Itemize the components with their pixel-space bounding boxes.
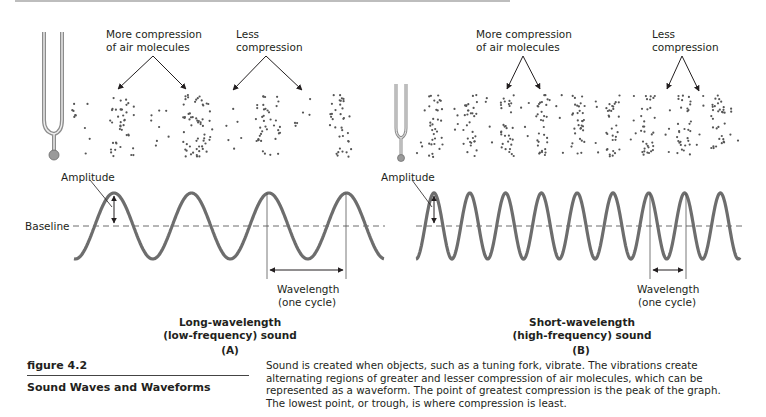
baseline-label: Baseline bbox=[25, 220, 70, 233]
panel-b-letter: (B) bbox=[561, 344, 601, 357]
wavelength-line-2: (one cycle) bbox=[637, 296, 697, 309]
less-compression-line-2: compression bbox=[236, 41, 303, 54]
figure-title: Sound Waves and Waveforms bbox=[27, 381, 211, 394]
less-compression-label-b: Less compression bbox=[652, 28, 719, 54]
figure-caption: Sound is created when objects, such as a… bbox=[266, 359, 736, 409]
more-compression-line-1: More compression bbox=[476, 28, 572, 41]
more-compression-line-1: More compression bbox=[106, 28, 202, 41]
less-compression-line-2: compression bbox=[652, 41, 719, 54]
sound-wave-diagram bbox=[0, 0, 766, 417]
less-compression-line-1: Less bbox=[652, 28, 719, 41]
amplitude-label-a: Amplitude bbox=[61, 171, 115, 184]
wavelength-line-1: Wavelength bbox=[277, 283, 337, 296]
wavelength-line-1: Wavelength bbox=[637, 283, 697, 296]
wavelength-label-a: Wavelength (one cycle) bbox=[277, 283, 337, 309]
panel-a-title-line-2: (low-frequency) sound bbox=[150, 329, 310, 342]
panel-a-title: Long-wavelength (low-frequency) sound bbox=[150, 316, 310, 342]
tuning-fork-icon-a bbox=[44, 32, 62, 160]
panel-b-title-line-2: (high-frequency) sound bbox=[497, 329, 667, 342]
tuning-fork-icon-b bbox=[396, 84, 406, 162]
more-compression-label-a: More compression of air molecules bbox=[106, 28, 202, 54]
panel-a-title-line-1: Long-wavelength bbox=[150, 316, 310, 329]
compression-arrows-a bbox=[118, 56, 302, 90]
panel-b-title: Short-wavelength (high-frequency) sound bbox=[497, 316, 667, 342]
wavelength-label-b: Wavelength (one cycle) bbox=[637, 283, 697, 309]
panel-a-letter: (A) bbox=[210, 344, 250, 357]
more-compression-line-2: of air molecules bbox=[476, 41, 572, 54]
wavelength-line-2: (one cycle) bbox=[277, 296, 337, 309]
amplitude-marker-a bbox=[90, 180, 114, 223]
less-compression-label-a: Less compression bbox=[236, 28, 303, 54]
amplitude-label-b: Amplitude bbox=[381, 171, 435, 184]
less-compression-line-1: Less bbox=[236, 28, 303, 41]
compression-arrows-b bbox=[507, 56, 699, 91]
panel-b-title-line-1: Short-wavelength bbox=[497, 316, 667, 329]
more-compression-label-b: More compression of air molecules bbox=[476, 28, 572, 54]
more-compression-line-2: of air molecules bbox=[106, 41, 202, 54]
figure-number: figure 4.2 bbox=[27, 359, 87, 372]
figure-rule bbox=[27, 375, 249, 376]
